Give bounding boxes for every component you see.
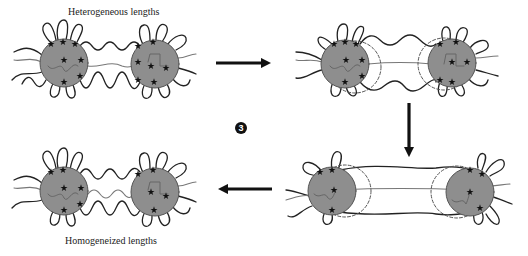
- label-homogeneized-lengths: Homogeneized lengths: [65, 235, 157, 246]
- panel-1-heterogeneous: [12, 20, 196, 98]
- panel-3-stretched: [286, 152, 512, 225]
- label-heterogeneous-lengths: Heterogeneous lengths: [68, 6, 159, 17]
- diagram: [0, 0, 528, 256]
- step-number-badge: 3: [235, 122, 247, 134]
- panel-4-homogeneized: [12, 148, 196, 226]
- panel-2-stretching: [296, 24, 498, 96]
